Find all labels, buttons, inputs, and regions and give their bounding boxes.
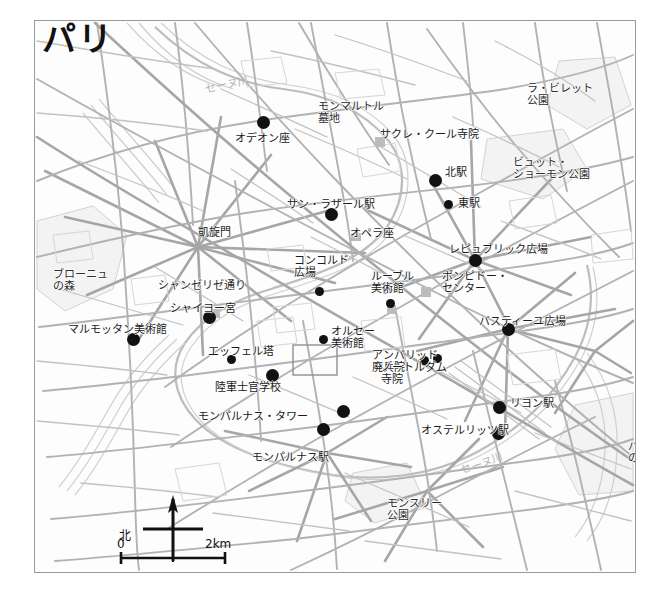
north-arrow-icon — [143, 495, 203, 561]
compass-and-scale-bar — [35, 21, 635, 572]
map-frame: .rd { fill:none; stroke:#a6a6a6; stroke-… — [34, 20, 636, 573]
paris-map: .rd { fill:none; stroke:#a6a6a6; stroke-… — [0, 0, 661, 599]
scale-bar-icon — [121, 552, 225, 564]
page-title: パリ — [42, 22, 114, 56]
scale-zero-label: 0 — [117, 537, 125, 551]
scale-max-label: 2km — [205, 537, 231, 551]
